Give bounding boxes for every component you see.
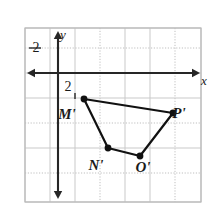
tick-label-x-tick-2: 2 [65,79,72,94]
tick-label-y-tick-2: 2 [33,40,40,55]
vertex-point-N [105,145,112,152]
figure-canvas: x y 22 M'N'O'P' [0,0,220,207]
y-axis-label: y [58,27,66,42]
vertex-label-N: N' [88,157,104,173]
vertex-point-M [81,96,88,103]
coordinate-plane-figure: x y 22 M'N'O'P' [0,0,220,207]
vertex-label-O: O' [136,159,151,175]
vertex-label-P: P' [172,105,185,121]
x-axis-label: x [200,73,207,88]
vertex-label-M: M' [57,106,76,122]
